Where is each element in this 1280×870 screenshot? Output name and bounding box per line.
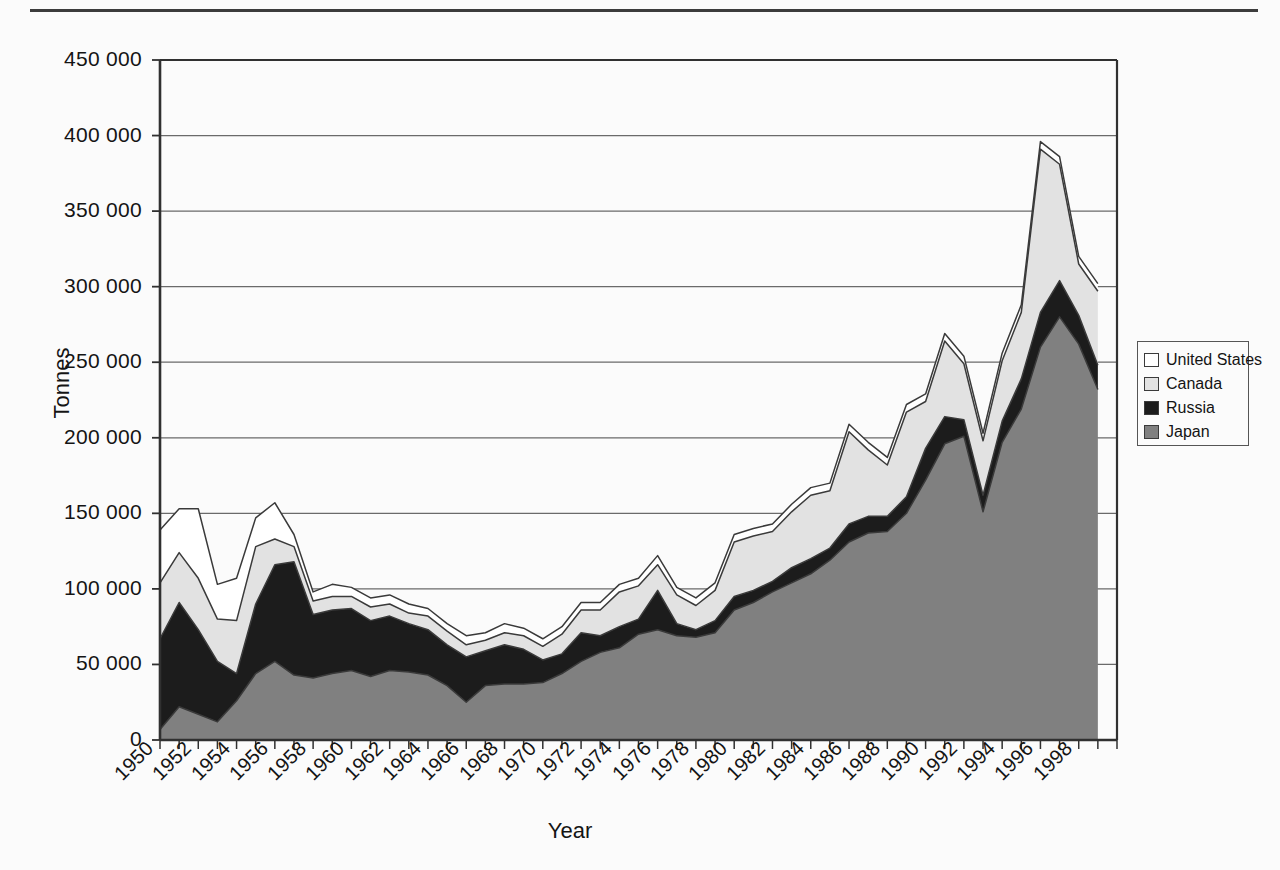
y-tick-label: 450 000 <box>0 47 142 71</box>
chart-legend: United StatesCanadaRussiaJapan <box>1137 341 1249 446</box>
y-tick-label: 350 000 <box>0 198 142 222</box>
legend-item-russia[interactable]: Russia <box>1144 396 1248 419</box>
page-root: 050 000100 000150 000200 000250 000300 0… <box>0 0 1280 870</box>
legend-swatch-icon <box>1144 425 1159 439</box>
legend-item-united-states[interactable]: United States <box>1144 348 1248 371</box>
y-tick-label: 50 000 <box>0 651 142 675</box>
legend-swatch-icon <box>1144 401 1159 415</box>
legend-swatch-icon <box>1144 377 1159 391</box>
legend-item-canada[interactable]: Canada <box>1144 372 1248 395</box>
legend-item-label: Japan <box>1166 424 1210 440</box>
y-tick-label: 0 <box>0 727 142 751</box>
legend-swatch-icon <box>1144 353 1159 367</box>
legend-item-japan[interactable]: Japan <box>1144 420 1248 443</box>
y-axis-title: Tonnes <box>49 313 75 453</box>
y-tick-label: 400 000 <box>0 123 142 147</box>
legend-item-label: Canada <box>1166 376 1222 392</box>
legend-item-label: Russia <box>1166 400 1215 416</box>
x-axis-title: Year <box>0 818 1140 844</box>
y-tick-label: 150 000 <box>0 500 142 524</box>
y-tick-label: 300 000 <box>0 274 142 298</box>
stacked-area-chart: 050 000100 000150 000200 000250 000300 0… <box>0 0 1280 870</box>
legend-item-label: United States <box>1166 352 1262 368</box>
area-series-group <box>160 142 1098 740</box>
y-tick-label: 100 000 <box>0 576 142 600</box>
